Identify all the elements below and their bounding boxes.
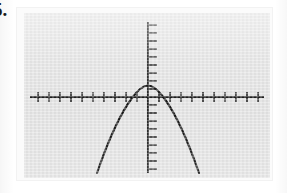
y-axis-ticks-above <box>148 25 157 89</box>
y-axis-ticks-below <box>148 105 157 169</box>
scanned-figure: 5. <box>0 0 287 193</box>
graph-plot <box>24 13 270 178</box>
calculator-screen <box>24 13 270 178</box>
problem-number-label: 5. <box>0 0 13 22</box>
